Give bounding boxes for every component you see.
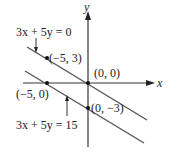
point-0-neg3 xyxy=(86,106,90,110)
y-axis-label: y xyxy=(84,1,89,13)
point-neg5-0 xyxy=(45,81,49,85)
point-label-neg5-3: (−5, 3) xyxy=(49,52,82,64)
point-label-neg5-0: (−5, 0) xyxy=(16,88,49,100)
point-label-0-neg3: (0, −3) xyxy=(91,102,124,114)
equation-label-2: 3x + 5y = 15 xyxy=(16,119,78,131)
equation-label-1: 3x + 5y = 0 xyxy=(16,26,72,38)
x-axis-arrow-icon xyxy=(146,80,155,86)
point-origin xyxy=(86,81,90,85)
x-axis-label: x xyxy=(157,77,162,89)
point-label-origin: (0, 0) xyxy=(94,67,120,79)
